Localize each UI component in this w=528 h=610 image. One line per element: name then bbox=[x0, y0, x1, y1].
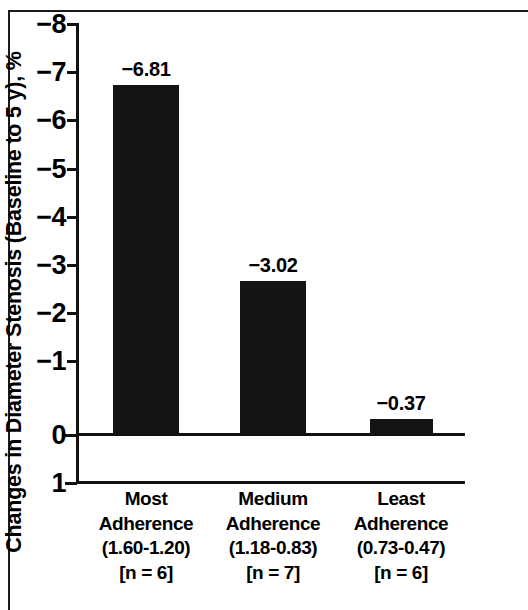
y-tick-mark bbox=[67, 71, 77, 74]
y-tick-mark bbox=[67, 312, 77, 315]
plot-area: −8−7−6−5−4−3−2−101 −6.81−3.02−0.37 bbox=[76, 23, 465, 483]
y-tick-label: −2 bbox=[36, 300, 66, 327]
bar-most-adherence bbox=[113, 85, 179, 434]
bar-medium-adherence bbox=[240, 281, 306, 434]
y-tick-mark bbox=[67, 168, 77, 171]
x-axis-spine bbox=[76, 481, 465, 484]
y-tick-label: −5 bbox=[36, 156, 66, 183]
y-axis-spine bbox=[76, 23, 79, 483]
y-tick-mark bbox=[67, 360, 77, 363]
y-tick-label: −8 bbox=[36, 11, 66, 38]
bar-least-adherence bbox=[370, 419, 433, 434]
y-tick-label: −6 bbox=[36, 107, 66, 134]
category-label-line: (0.73-0.47) bbox=[321, 536, 481, 561]
bar-value-label-medium-adherence: −3.02 bbox=[248, 255, 297, 275]
y-tick-mark bbox=[65, 482, 77, 485]
y-tick-mark bbox=[67, 216, 77, 219]
y-tick-label: −7 bbox=[36, 59, 66, 86]
y-tick-mark bbox=[65, 434, 77, 437]
category-label-least-adherence: LeastAdherence(0.73-0.47)[n = 6] bbox=[321, 487, 481, 585]
y-tick-mark bbox=[67, 23, 77, 26]
y-tick-label: −4 bbox=[36, 204, 66, 231]
y-tick-mark bbox=[67, 264, 77, 267]
y-axis-title: Changes in Diameter Stenosis (Baseline t… bbox=[0, 12, 29, 592]
category-label-line: [n = 6] bbox=[321, 561, 481, 586]
y-tick-label: −1 bbox=[36, 348, 66, 375]
y-tick-label: 0 bbox=[51, 422, 66, 449]
y-tick-mark bbox=[67, 119, 77, 122]
x-axis-category-labels: MostAdherence(1.60-1.20)[n = 6]MediumAdh… bbox=[76, 487, 465, 587]
category-label-line: Adherence bbox=[321, 512, 481, 537]
bar-value-label-least-adherence: −0.37 bbox=[376, 393, 425, 413]
bar-value-label-most-adherence: −6.81 bbox=[121, 59, 170, 79]
category-label-line: Least bbox=[321, 487, 481, 512]
y-tick-label: 1 bbox=[51, 470, 66, 497]
y-tick-label: −3 bbox=[36, 252, 66, 279]
